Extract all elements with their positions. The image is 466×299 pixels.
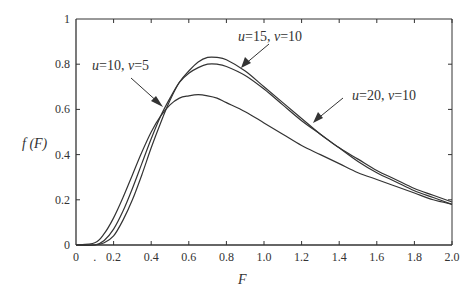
annotation-u20-v10: u=20, ν=10	[313, 88, 416, 123]
x-axis-title: F	[237, 272, 247, 287]
f-distribution-chart: 0.0.20.40.60.81.01.21.41.61.82.0 00.20.4…	[0, 0, 466, 299]
x-tick-label: 0.2	[106, 250, 121, 264]
curves	[76, 57, 452, 245]
x-tick-label: 0.4	[144, 250, 159, 264]
arrow-head-icon	[241, 57, 251, 68]
y-tick-label: 0.4	[55, 148, 70, 162]
x-tick-label: 1.0	[257, 250, 272, 264]
y-tick-label: 0	[64, 238, 70, 252]
annotation-u15-v10: u=15, ν=10	[238, 29, 302, 68]
x-tick-label: 0.8	[219, 250, 234, 264]
x-tick-label: 0.6	[181, 250, 196, 264]
y-tick-labels: 00.20.40.60.81	[55, 12, 70, 252]
y-tick-label: 1	[64, 12, 70, 26]
svg-text:u=20, ν=10: u=20, ν=10	[352, 88, 416, 103]
axis-ticks	[76, 19, 452, 245]
x-tick-label: 0	[73, 250, 79, 264]
annotation-u10-v5: u=10, ν=5	[92, 58, 163, 107]
svg-text:u=15, ν=10: u=15, ν=10	[238, 29, 302, 44]
y-tick-label: 0.2	[55, 193, 70, 207]
x-tick-label: 1.8	[407, 250, 422, 264]
x-tick-label: 2.0	[445, 250, 460, 264]
x-tick-label: 1.2	[294, 250, 309, 264]
curve-series-2	[76, 57, 452, 245]
svg-text:u=10, ν=5: u=10, ν=5	[92, 58, 149, 73]
curve-series-0	[76, 95, 452, 245]
arrow-head-icon	[313, 112, 323, 123]
y-tick-label: 0.8	[55, 57, 70, 71]
x-tick-label: 1.6	[369, 250, 384, 264]
x-tick-label: 1.4	[332, 250, 347, 264]
y-axis-title: f (F)	[22, 136, 48, 152]
y-tick-label: 0.6	[55, 102, 70, 116]
plot-frame	[76, 19, 452, 245]
x-tick-label: .	[93, 250, 96, 264]
x-tick-labels: 0.0.20.40.60.81.01.21.41.61.82.0	[73, 250, 460, 264]
